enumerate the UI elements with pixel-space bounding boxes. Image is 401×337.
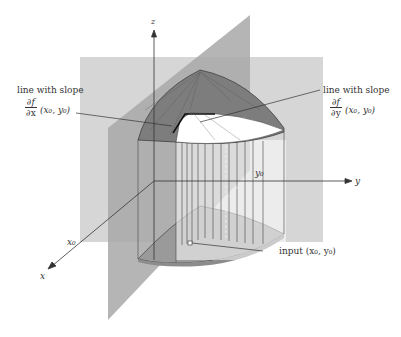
right-annotation-title: line with slope — [323, 86, 390, 95]
left-point: (x₀, y₀) — [40, 106, 70, 115]
left-frac-den: ∂x — [25, 108, 37, 118]
y-axis-label: y — [355, 177, 360, 186]
input-label: input (x₀, y₀) — [279, 247, 336, 256]
right-partial-fraction: ∂f ∂y — [330, 97, 342, 118]
input-point — [188, 241, 192, 245]
left-annotation-title: line with slope — [17, 86, 84, 95]
y0-label: y₀ — [255, 169, 264, 178]
right-frac-den: ∂y — [330, 108, 342, 118]
cylinder-front — [176, 140, 286, 260]
left-partial-fraction: ∂f ∂x — [25, 97, 37, 118]
left-frac-num: ∂f — [25, 97, 37, 108]
partial-derivative-diagram — [0, 0, 401, 337]
x-axis-label: x — [40, 272, 45, 281]
right-point: (x₀, y₀) — [345, 106, 375, 115]
right-frac-num: ∂f — [330, 97, 342, 108]
x0-label: x₀ — [67, 238, 76, 247]
z-axis-label: z — [151, 18, 155, 26]
